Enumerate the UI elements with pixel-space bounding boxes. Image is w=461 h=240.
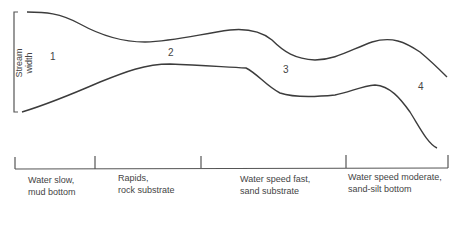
stream-width-label: Stream width bbox=[14, 41, 34, 85]
segment-caption-line: rock substrate bbox=[118, 184, 175, 196]
segment-caption-line: sand substrate bbox=[240, 185, 310, 197]
segment-caption-line: sand-silt bottom bbox=[348, 183, 442, 195]
segment-caption-line: Water speed moderate, bbox=[348, 171, 442, 183]
segment-caption-1: Water slow, mud bottom bbox=[28, 174, 76, 198]
stream-bottom-bank bbox=[22, 64, 437, 148]
zone-3-label: 3 bbox=[283, 65, 289, 75]
zone-4-label: 4 bbox=[418, 82, 424, 92]
zone-2-label: 2 bbox=[168, 48, 174, 58]
segment-baseline bbox=[15, 168, 448, 169]
segment-caption-4: Water speed moderate, sand-silt bottom bbox=[348, 171, 442, 195]
segment-caption-line: Water speed fast, bbox=[240, 173, 310, 185]
segment-caption-line: mud bottom bbox=[28, 186, 76, 198]
segment-caption-line: Rapids, bbox=[118, 172, 175, 184]
segment-caption-line: Water slow, bbox=[28, 174, 76, 186]
zone-1-label: 1 bbox=[50, 52, 56, 62]
stream-width-label-line2: width bbox=[24, 41, 34, 85]
segment-caption-2: Rapids, rock substrate bbox=[118, 172, 175, 196]
segment-caption-3: Water speed fast, sand substrate bbox=[240, 173, 310, 197]
stream-width-label-line1: Stream bbox=[14, 41, 24, 85]
